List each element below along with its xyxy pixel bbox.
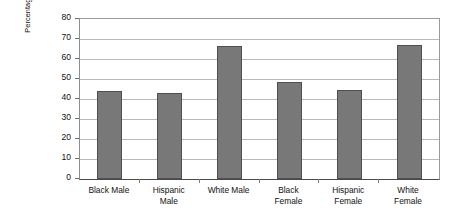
x-axis-tick-mark xyxy=(378,179,379,183)
x-axis-category-label: WhiteFemale xyxy=(378,185,438,206)
x-axis-category-label: BlackFemale xyxy=(259,185,319,206)
x-axis-label-group: Black MaleHispanicMaleWhite MaleBlackFem… xyxy=(79,185,439,218)
bar xyxy=(157,93,182,179)
y-axis-tick-label: 60 xyxy=(49,53,71,62)
gridline xyxy=(80,59,439,60)
x-axis-tick-group xyxy=(79,179,439,184)
bar xyxy=(337,90,362,179)
x-axis-category-label-line: Female xyxy=(259,196,319,207)
y-axis-title: Percentage Included in the Regular Class… xyxy=(18,0,48,40)
x-axis-category-label-line: Black xyxy=(259,185,319,196)
y-axis-tick-label: 0 xyxy=(49,173,71,182)
bar xyxy=(277,82,302,179)
bar-chart-figure: Percentage Included in the Regular Class… xyxy=(0,0,459,220)
y-axis-tick-label: 30 xyxy=(49,113,71,122)
y-axis-tick-group: 80706050403020100 xyxy=(50,0,79,220)
gridline xyxy=(80,39,439,40)
x-axis-category-label: White Male xyxy=(199,185,259,196)
bar xyxy=(97,91,122,179)
y-axis-tick-label: 70 xyxy=(49,33,71,42)
x-axis-category-label-line: Black Male xyxy=(79,185,139,196)
y-axis-tick-label: 80 xyxy=(49,13,71,22)
x-axis-tick-mark xyxy=(259,179,260,183)
y-axis-tick-label: 40 xyxy=(49,93,71,102)
x-axis-category-label-line: Female xyxy=(378,196,438,207)
gridline xyxy=(80,79,439,80)
bar xyxy=(397,45,422,179)
x-axis-category-label: HispanicFemale xyxy=(318,185,378,206)
x-axis-category-label-line: Male xyxy=(139,196,199,207)
y-axis-tick-label: 50 xyxy=(49,73,71,82)
x-axis-category-label-line: Hispanic xyxy=(139,185,199,196)
bar xyxy=(217,46,242,179)
y-axis-tick-label: 10 xyxy=(49,153,71,162)
x-axis-category-label-line: Hispanic xyxy=(318,185,378,196)
x-axis-tick-mark xyxy=(139,179,140,183)
gridline xyxy=(80,99,439,100)
y-axis-tick-label: 20 xyxy=(49,133,71,142)
x-axis-category-label: HispanicMale xyxy=(139,185,199,206)
gridline xyxy=(80,159,439,160)
x-axis-category-label-line: White Male xyxy=(199,185,259,196)
x-axis-tick-mark xyxy=(318,179,319,183)
x-axis-tick-mark xyxy=(199,179,200,183)
gridline xyxy=(80,139,439,140)
gridline xyxy=(80,119,439,120)
x-axis-category-label-line: Female xyxy=(318,196,378,207)
x-axis-category-label-line: White xyxy=(378,185,438,196)
x-axis-category-label: Black Male xyxy=(79,185,139,196)
plot-area xyxy=(79,18,440,180)
